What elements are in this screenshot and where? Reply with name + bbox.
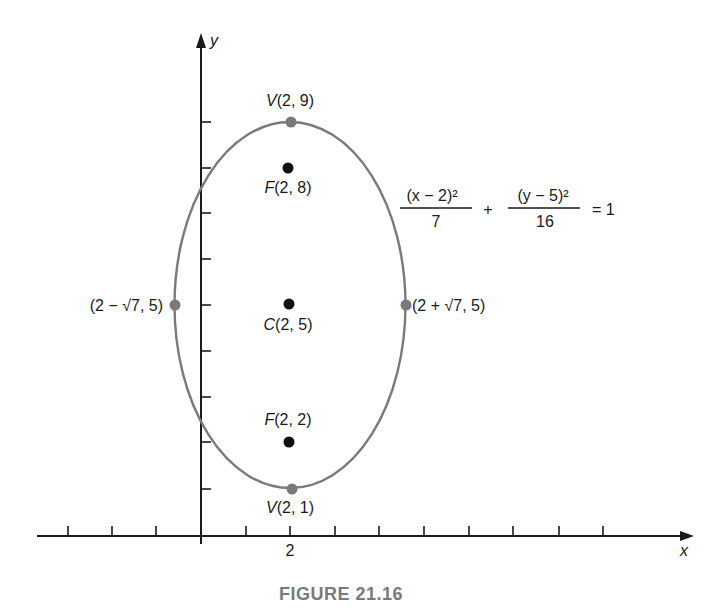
x-axis-label: x: [679, 542, 689, 559]
left-covertex-dot: [170, 300, 181, 311]
ellipse-figure: 2 x y V(2, 9) F(2, 8) C(2, 5) F(2, 2) V(…: [0, 0, 728, 614]
x-tick-label-2: 2: [286, 542, 295, 559]
ellipse-equation: (x − 2)² 7 + (y − 5)² 16 = 1: [400, 187, 615, 230]
y-axis-label: y: [209, 32, 219, 49]
x-axis-ticks: [68, 526, 603, 536]
equation-term2-numerator: (y − 5)²: [517, 187, 569, 204]
equation-plus: +: [483, 201, 492, 218]
equation-term1-numerator: (x − 2)²: [406, 187, 458, 204]
y-axis-arrow-icon: [196, 33, 206, 48]
right-covertex-dot: [401, 300, 412, 311]
left-covertex-label: (2 − √7, 5): [90, 297, 163, 314]
bottom-vertex-dot: [287, 484, 298, 495]
lower-focus-label: F(2, 2): [264, 411, 311, 428]
x-axis-arrow-icon: [680, 531, 694, 541]
y-axis: y: [196, 32, 219, 544]
y-axis-ticks: [201, 122, 211, 489]
right-covertex-label: (2 + √7, 5): [412, 297, 485, 314]
equation-rhs: = 1: [592, 201, 615, 218]
top-vertex-dot: [286, 117, 297, 128]
x-axis: 2 x: [37, 526, 694, 559]
center-dot: [284, 299, 295, 310]
bottom-vertex-label: V(2, 1): [266, 499, 314, 516]
upper-focus-label: F(2, 8): [264, 179, 311, 196]
lower-focus-dot: [284, 437, 295, 448]
equation-term2-denominator: 16: [536, 213, 554, 230]
upper-focus-dot: [283, 163, 294, 174]
equation-term1-denominator: 7: [432, 213, 441, 230]
figure-caption: FIGURE 21.16: [279, 584, 403, 604]
center-label: C(2, 5): [264, 316, 313, 333]
top-vertex-label: V(2, 9): [266, 92, 314, 109]
